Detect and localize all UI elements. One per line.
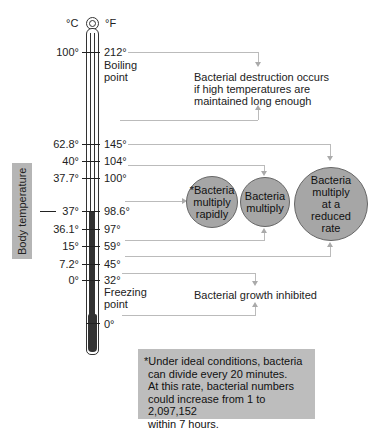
body-temperature-pointer: [40, 211, 56, 212]
circle-multiply: Bacteria multiply: [240, 177, 290, 227]
footnote-line3: At this rate, bacterial numbers: [144, 380, 309, 393]
fahrenheit-label-104: 104°: [104, 155, 127, 167]
celsius-label-100: 100°: [29, 46, 79, 58]
fahrenheit-label-100: 100°: [104, 172, 127, 184]
freezing-point-line1: Freezing: [104, 286, 147, 298]
fahrenheit-header: °F: [105, 17, 116, 29]
reduced-line5: rate: [311, 222, 351, 234]
connector-97-rise: [264, 232, 265, 240]
footnote-line1: *Under ideal conditions, bacteria: [144, 355, 309, 368]
connector-104: [128, 165, 265, 166]
destruction-text-line2: if high temperatures are: [194, 83, 310, 95]
tick-37.7: [82, 178, 100, 179]
inhibited-text: Bacterial growth inhibited: [194, 289, 317, 301]
celsius-label-62.8: 62.8°: [29, 138, 79, 150]
connector-145-rise: [258, 110, 259, 120]
reduced-line3: at a: [311, 198, 351, 210]
arrow-down-icon: [327, 156, 333, 161]
rapid-line1: *Bacteria: [190, 184, 235, 196]
mercury-column: [89, 211, 95, 319]
reduced-line2: multiply: [311, 186, 351, 198]
body-temperature-text: Body temperature: [16, 167, 28, 254]
celsius-label-36.1: 36.1°: [29, 223, 79, 235]
tick-7.2: [82, 264, 100, 265]
tick-37: [82, 211, 100, 212]
connector-45-rise: [330, 246, 331, 256]
multiply-line1: Bacteria: [245, 190, 285, 202]
celsius-label-15: 15°: [29, 240, 79, 252]
arrow-up-icon: [252, 302, 258, 307]
rapid-line2: multiply: [190, 196, 235, 208]
fahrenheit-label-59: 59°: [104, 240, 121, 252]
celsius-label-7.2: 7.2°: [29, 258, 79, 270]
connector-97: [125, 240, 265, 241]
connector-145-drop: [330, 144, 331, 156]
arrow-down-icon: [252, 281, 258, 286]
tick-15: [82, 246, 100, 247]
fahrenheit-label-145: 145°: [104, 138, 127, 150]
connector-32-drop: [255, 273, 256, 281]
footnote-line4: could increase from 1 to 2,097,152: [144, 393, 309, 418]
freezing-point-line2: point: [104, 298, 128, 310]
connector-98.6: [125, 201, 182, 202]
connector-212: [128, 52, 258, 53]
thermometer-top-ring-inner: [89, 20, 96, 27]
arrow-down-icon: [255, 62, 261, 67]
footnote-box: *Under ideal conditions, bacteria can di…: [138, 349, 315, 419]
celsius-label-37.7: 37.7°: [29, 172, 79, 184]
boiling-point-line2: point: [104, 71, 128, 83]
fahrenheit-label-98.6: 98.6°: [104, 205, 130, 217]
arrow-down-icon: [261, 171, 267, 176]
footnote-line5: within 7 hours.: [144, 418, 309, 428]
multiply-line2: multiply: [245, 202, 285, 214]
tick-62.8: [82, 144, 100, 145]
destruction-text-line1: Bacterial destruction occurs: [194, 71, 329, 83]
tick-100: [82, 52, 100, 53]
fahrenheit-label-32: 32°: [104, 274, 121, 286]
tick-36.1: [82, 229, 100, 230]
connector-145: [128, 144, 331, 145]
connector-0f: [122, 315, 256, 316]
fahrenheit-label-97: 97°: [104, 223, 121, 235]
footnote-line2: can divide every 20 minutes.: [144, 368, 309, 381]
connector-32: [122, 273, 256, 274]
celsius-header: °C: [66, 17, 78, 29]
body-temperature-label: Body temperature: [12, 163, 32, 259]
circle-reduced-rate: Bacteria multiply at a reduced rate: [294, 167, 368, 241]
connector-212-drop: [258, 52, 259, 62]
rapid-line3: rapidly: [190, 208, 235, 220]
fahrenheit-label-0: 0°: [104, 318, 115, 330]
reduced-line1: Bacteria: [311, 174, 351, 186]
connector-45: [125, 256, 331, 257]
boiling-point-line1: Boiling: [104, 59, 137, 71]
tick-0: [82, 280, 100, 281]
tick-0f: [86, 323, 100, 324]
arrow-up-icon: [327, 242, 333, 247]
tick-40: [82, 161, 100, 162]
fahrenheit-label-212: 212°: [104, 46, 127, 58]
fahrenheit-label-45: 45°: [104, 258, 121, 270]
connector-0f-rise: [255, 306, 256, 315]
connector-145-top: [120, 120, 258, 121]
celsius-label-40: 40°: [29, 155, 79, 167]
reduced-line4: reduced: [311, 210, 351, 222]
arrow-up-icon: [261, 228, 267, 233]
celsius-label-0: 0°: [29, 274, 79, 286]
thermometer-bulb: [88, 314, 97, 352]
destruction-text-line3: maintained long enough: [194, 95, 311, 107]
circle-rapidly: *Bacteria multiply rapidly: [186, 176, 238, 228]
